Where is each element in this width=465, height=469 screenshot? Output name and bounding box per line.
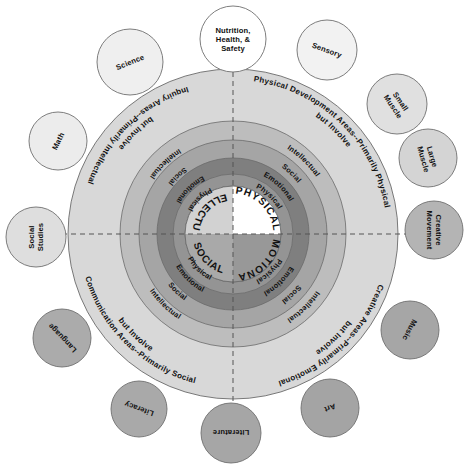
bubble-label: SocialStudies — [27, 223, 45, 251]
curriculum-wheel-diagram: INTELLECTUALPHYSICALSOCIALEMOTIONALPhysi… — [0, 0, 465, 469]
bubble-science[interactable]: Science — [97, 29, 163, 95]
bubble-social-studies[interactable]: SocialStudies — [6, 207, 66, 267]
bubble-nutrition[interactable]: Nutrition,Health, &Safety — [200, 6, 266, 72]
diagram-canvas: INTELLECTUALPHYSICALSOCIALEMOTIONALPhysi… — [0, 0, 465, 469]
bubble-language[interactable]: Language — [33, 309, 91, 367]
bubble-sensory[interactable]: Sensory — [297, 20, 357, 80]
bubble-label: CreativeMovement — [425, 211, 443, 250]
bubble-literacy[interactable]: Literacy — [111, 381, 167, 437]
bubble-math[interactable]: Math — [29, 112, 87, 170]
bubble-large-muscle[interactable]: LargeMuscle — [399, 129, 457, 187]
bubble-art[interactable]: Art — [301, 379, 359, 437]
bubble-small-muscle[interactable]: SmallMuscle — [367, 74, 427, 134]
bubble-literature[interactable]: Literature — [201, 403, 261, 463]
bubble-creative-movement[interactable]: CreativeMovement — [405, 201, 463, 259]
bubble-label: Literature — [213, 428, 250, 437]
bubble-music[interactable]: Music — [381, 301, 439, 359]
